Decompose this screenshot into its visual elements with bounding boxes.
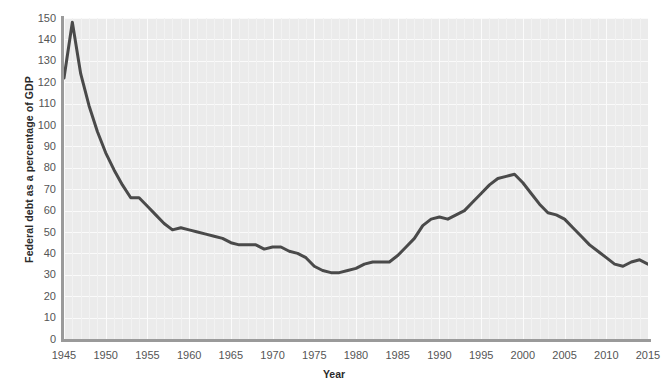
x-tick-1945: 1945 bbox=[41, 349, 87, 361]
y-tick-0: 0 bbox=[26, 334, 56, 345]
y-tick-50: 50 bbox=[26, 227, 56, 238]
x-tick-1955: 1955 bbox=[124, 349, 170, 361]
clipped-header-text: · · · · · · · · bbox=[22, 0, 482, 3]
x-tick-1970: 1970 bbox=[250, 349, 296, 361]
y-tick-100: 100 bbox=[26, 120, 56, 131]
y-axis-tick-labels: 0102030405060708090100110120130140150 bbox=[22, 0, 56, 387]
chart-figure: · · · · · · · · Federal debt as a percen… bbox=[0, 0, 668, 387]
x-tick-2005: 2005 bbox=[542, 349, 588, 361]
y-tick-60: 60 bbox=[26, 205, 56, 216]
y-tick-110: 110 bbox=[26, 98, 56, 109]
y-axis-spine bbox=[61, 16, 64, 341]
y-tick-80: 80 bbox=[26, 162, 56, 173]
x-tick-1965: 1965 bbox=[208, 349, 254, 361]
x-tick-2015: 2015 bbox=[625, 349, 668, 361]
y-tick-20: 20 bbox=[26, 291, 56, 302]
plot-area bbox=[64, 18, 648, 339]
debt-series-path bbox=[64, 22, 648, 272]
x-tick-1985: 1985 bbox=[375, 349, 421, 361]
y-tick-30: 30 bbox=[26, 269, 56, 280]
x-tick-1995: 1995 bbox=[458, 349, 504, 361]
x-tick-1960: 1960 bbox=[166, 349, 212, 361]
series-line bbox=[64, 18, 648, 339]
y-tick-120: 120 bbox=[26, 77, 56, 88]
x-tick-2000: 2000 bbox=[500, 349, 546, 361]
y-tick-90: 90 bbox=[26, 141, 56, 152]
y-tick-150: 150 bbox=[26, 13, 56, 24]
y-tick-130: 130 bbox=[26, 55, 56, 66]
y-tick-70: 70 bbox=[26, 184, 56, 195]
x-tick-1980: 1980 bbox=[333, 349, 379, 361]
x-tick-2010: 2010 bbox=[583, 349, 629, 361]
y-tick-10: 10 bbox=[26, 312, 56, 323]
x-tick-1990: 1990 bbox=[416, 349, 462, 361]
y-tick-140: 140 bbox=[26, 34, 56, 45]
x-tick-1950: 1950 bbox=[83, 349, 129, 361]
x-tick-1975: 1975 bbox=[291, 349, 337, 361]
x-axis-spine bbox=[61, 339, 651, 342]
y-tick-40: 40 bbox=[26, 248, 56, 259]
x-axis-title: Year bbox=[0, 368, 668, 380]
x-axis-tick-labels: 1945195019551960196519701975198019851990… bbox=[0, 349, 668, 365]
